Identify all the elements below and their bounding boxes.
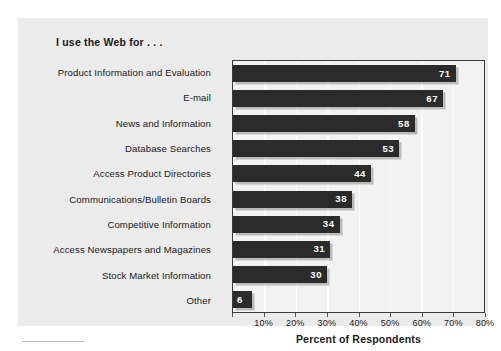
footer-rule (22, 341, 84, 342)
bar-row: 31 (233, 237, 484, 262)
x-tick-mark (359, 313, 360, 317)
category-label: Access Newspapers and Magazines (38, 237, 214, 262)
bar-row: 58 (233, 111, 484, 136)
category-label: Database Searches (38, 136, 214, 161)
x-tick-mark (232, 313, 233, 317)
bar-value-label: 30 (310, 270, 322, 280)
plot-area: 7167585344383431306 (232, 60, 485, 313)
bar[interactable]: 6 (233, 291, 252, 308)
x-tick-mark (422, 313, 423, 317)
x-tick-mark (295, 313, 296, 317)
x-tick-label: 60% (412, 318, 431, 328)
category-label: Product Information and Evaluation (38, 60, 214, 85)
x-tick-label: 20% (286, 318, 305, 328)
x-axis-title: Percent of Respondents (232, 333, 485, 345)
category-label: News and Information (38, 111, 214, 136)
bar[interactable]: 53 (233, 140, 399, 157)
x-tick-mark (327, 313, 328, 317)
bar-value-label: 31 (313, 244, 325, 254)
bar-value-label: 34 (323, 219, 335, 229)
chart-title: I use the Web for . . . (56, 36, 163, 48)
bar[interactable]: 67 (233, 90, 443, 107)
category-label: Access Product Directories (38, 161, 214, 186)
bar[interactable]: 71 (233, 65, 456, 82)
bar[interactable]: 31 (233, 241, 330, 258)
bar-row: 67 (233, 86, 484, 111)
x-tick-mark (264, 313, 265, 317)
bar-row: 6 (233, 287, 484, 312)
x-tick-label: 10% (254, 318, 273, 328)
category-label: E-mail (38, 85, 214, 110)
bar[interactable]: 30 (233, 266, 327, 283)
bar-row: 44 (233, 161, 484, 186)
bar-value-label: 53 (382, 144, 394, 154)
x-tick-mark (485, 313, 486, 317)
bar-value-label: 6 (237, 295, 243, 305)
category-axis-labels: Product Information and Evaluation E-mai… (38, 60, 214, 313)
x-tick-mark (390, 313, 391, 317)
bar[interactable]: 38 (233, 191, 352, 208)
category-label: Other (38, 288, 214, 313)
bar-row: 34 (233, 212, 484, 237)
bar[interactable]: 44 (233, 165, 371, 182)
category-label: Communications/Bulletin Boards (38, 186, 214, 211)
bar-row: 30 (233, 262, 484, 287)
bar-row: 53 (233, 136, 484, 161)
x-tick-mark (453, 313, 454, 317)
bar-value-label: 38 (335, 194, 347, 204)
bar-value-label: 58 (398, 119, 410, 129)
bar-value-label: 44 (354, 169, 366, 179)
bar[interactable]: 34 (233, 216, 340, 233)
category-label: Stock Market Information (38, 262, 214, 287)
bar-series: 7167585344383431306 (233, 61, 484, 312)
bar-value-label: 67 (426, 94, 438, 104)
x-tick-label: 40% (349, 318, 368, 328)
figure-card: I use the Web for . . . Product Informat… (18, 18, 488, 326)
x-tick-label: 80% (476, 318, 495, 328)
x-axis: 10%20%30%40%50%60%70%80% (232, 313, 485, 331)
category-label: Competitive Information (38, 212, 214, 237)
bar-row: 38 (233, 186, 484, 211)
x-tick-label: 30% (318, 318, 337, 328)
x-tick-label: 70% (444, 318, 463, 328)
bar-row: 71 (233, 61, 484, 86)
bar-value-label: 71 (439, 69, 451, 79)
x-tick-label: 50% (381, 318, 400, 328)
bar[interactable]: 58 (233, 115, 415, 132)
